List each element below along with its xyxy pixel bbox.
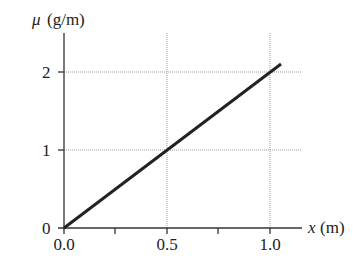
x-tick-2: 1.0 <box>259 235 280 254</box>
chart: 0 1 2 0.0 0.5 1.0 μ (g/m) x (m) <box>0 0 357 273</box>
data-line <box>64 64 281 228</box>
x-tick-1: 0.5 <box>156 235 177 254</box>
x-axis-unit: (m) <box>320 218 345 237</box>
y-tick-1: 1 <box>42 141 51 160</box>
y-tick-2: 2 <box>42 63 51 82</box>
gridlines <box>64 33 302 228</box>
x-axis-var: x <box>307 218 316 237</box>
y-axis-var: μ <box>31 10 41 29</box>
x-tick-0: 0.0 <box>53 235 74 254</box>
y-tick-0: 0 <box>42 219 51 238</box>
y-axis-unit: (g/m) <box>47 10 85 29</box>
